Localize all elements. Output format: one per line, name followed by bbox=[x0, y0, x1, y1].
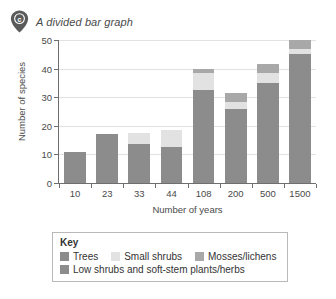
x-tick-label: 500 bbox=[252, 188, 284, 199]
stacked-bar[interactable] bbox=[225, 93, 247, 183]
stacked-bar[interactable] bbox=[289, 40, 311, 183]
bar-segment bbox=[289, 54, 311, 183]
x-tick-label: 1500 bbox=[284, 188, 316, 199]
y-axis-title: Number of species bbox=[16, 37, 27, 167]
legend-label: Low shrubs and soft-stem plants/herbs bbox=[73, 264, 245, 275]
plot-area: 01020304050 bbox=[58, 40, 316, 184]
stacked-bar[interactable] bbox=[64, 152, 86, 183]
stacked-bar[interactable] bbox=[128, 133, 150, 183]
figure-title: A divided bar graph bbox=[36, 16, 133, 28]
y-tick-mark bbox=[54, 154, 58, 155]
legend-item: Mosses/lichens bbox=[195, 251, 276, 262]
bar-segment bbox=[257, 73, 279, 83]
x-tick-label: 108 bbox=[188, 188, 220, 199]
legend-row-primary: TreesSmall shrubsMosses/lichens bbox=[60, 251, 280, 262]
bar-segment bbox=[193, 73, 215, 90]
legend-swatch bbox=[60, 252, 69, 261]
x-tick-mark bbox=[316, 184, 317, 188]
bar-slot bbox=[220, 40, 252, 183]
x-tick-label: 200 bbox=[220, 188, 252, 199]
svg-text:c: c bbox=[18, 15, 22, 24]
bar-slot bbox=[252, 40, 284, 183]
figure-header: c A divided bar graph bbox=[10, 10, 133, 33]
y-tick-mark bbox=[54, 69, 58, 70]
bar-segment bbox=[225, 102, 247, 109]
bar-series-group bbox=[59, 40, 316, 183]
bar-segment bbox=[161, 147, 183, 183]
legend-label: Trees bbox=[73, 251, 98, 262]
bar-slot bbox=[188, 40, 220, 183]
bar-segment bbox=[225, 93, 247, 102]
bar-slot bbox=[59, 40, 91, 183]
y-tick-mark bbox=[54, 40, 58, 41]
legend-label: Mosses/lichens bbox=[208, 251, 276, 262]
legend-swatch bbox=[195, 252, 204, 261]
y-tick-mark bbox=[54, 183, 58, 184]
y-tick-label: 40 bbox=[41, 63, 52, 74]
x-tick-label: 23 bbox=[91, 188, 123, 199]
y-tick-label: 10 bbox=[41, 149, 52, 160]
bar-segment bbox=[225, 109, 247, 183]
bar-segment bbox=[193, 90, 215, 183]
map-pin-icon: c bbox=[10, 10, 29, 33]
legend-title: Key bbox=[60, 237, 280, 248]
stacked-bar[interactable] bbox=[193, 69, 215, 183]
legend-row-secondary: Low shrubs and soft-stem plants/herbs bbox=[60, 264, 280, 275]
y-tick-label: 30 bbox=[41, 92, 52, 103]
stacked-bar[interactable] bbox=[257, 64, 279, 183]
bar-segment bbox=[128, 144, 150, 183]
y-tick-mark bbox=[54, 126, 58, 127]
legend-item: Trees bbox=[60, 251, 98, 262]
bar-segment bbox=[161, 130, 183, 147]
bar-segment bbox=[128, 133, 150, 144]
y-tick-label: 20 bbox=[41, 120, 52, 131]
legend-swatch bbox=[60, 265, 69, 274]
y-tick-label: 0 bbox=[47, 178, 52, 189]
bar-slot bbox=[155, 40, 187, 183]
legend-label: Small shrubs bbox=[124, 251, 182, 262]
bar-slot bbox=[284, 40, 316, 183]
stacked-bar[interactable] bbox=[161, 130, 183, 183]
bar-slot bbox=[91, 40, 123, 183]
legend-item: Small shrubs bbox=[111, 251, 182, 262]
x-tick-label: 33 bbox=[123, 188, 155, 199]
y-tick-mark bbox=[54, 97, 58, 98]
stacked-bar[interactable] bbox=[96, 134, 118, 183]
legend-swatch bbox=[111, 252, 120, 261]
bar-segment bbox=[257, 64, 279, 73]
x-tick-label: 44 bbox=[155, 188, 187, 199]
chart-container: Number of species 01020304050 1023334410… bbox=[0, 34, 336, 220]
x-tick-label: 10 bbox=[59, 188, 91, 199]
bar-segment bbox=[64, 152, 86, 183]
bar-slot bbox=[123, 40, 155, 183]
x-axis-title: Number of years bbox=[59, 204, 316, 215]
chart-legend: Key TreesSmall shrubsMosses/lichens Low … bbox=[52, 232, 288, 282]
bar-segment bbox=[96, 134, 118, 183]
bar-segment bbox=[257, 83, 279, 183]
legend-item: Low shrubs and soft-stem plants/herbs bbox=[60, 264, 245, 275]
x-axis-tick-labels: 102333441082005001500 bbox=[59, 188, 316, 199]
y-tick-label: 50 bbox=[41, 35, 52, 46]
bar-segment bbox=[289, 40, 311, 49]
